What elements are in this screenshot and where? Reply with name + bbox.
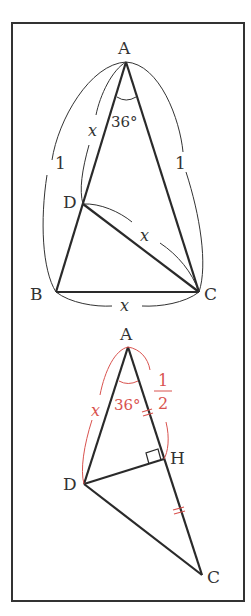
brace-bc-left <box>56 292 112 306</box>
vertex-label-c-2: C <box>207 567 220 587</box>
angle-arc-a-red <box>119 381 138 384</box>
vertex-label-h: H <box>170 448 185 468</box>
brace-ad-upper <box>96 62 126 115</box>
side-label-ad-2: x <box>91 401 100 420</box>
figure-2-triangle-adc: A C D H 36° x 1 2 <box>63 324 220 587</box>
brace-bc-right <box>142 292 199 306</box>
side-label-dc: x <box>140 226 149 245</box>
vertex-label-a: A <box>117 38 131 58</box>
tick-mark-ah <box>142 409 153 416</box>
side-label-ac: 1 <box>175 153 186 173</box>
brace-dc-upper <box>83 204 132 222</box>
geometry-figure: A B C D 36° 1 1 x x x <box>0 0 251 616</box>
figure-1-triangle-abc: A B C D 36° 1 1 x x x <box>30 38 217 315</box>
brace-ah-red-lower <box>164 422 168 459</box>
segment-dh <box>84 459 164 484</box>
brace-ab-lower <box>43 175 56 292</box>
vertex-label-d: D <box>63 192 77 212</box>
vertex-label-d-2: D <box>63 474 77 494</box>
angle-label-a-2: 36° <box>114 396 141 414</box>
side-label-bc: x <box>120 296 129 315</box>
segment-ab <box>56 62 126 292</box>
segment-dc <box>84 484 202 575</box>
vertex-label-b: B <box>30 284 43 304</box>
angle-arc-a <box>117 97 136 100</box>
half-numerator: 1 <box>158 371 168 390</box>
vertex-label-c: C <box>204 284 217 304</box>
angle-label-a: 36° <box>111 113 138 131</box>
brace-ac-upper <box>126 62 183 152</box>
half-denominator: 2 <box>158 394 168 413</box>
segment-dc <box>83 204 199 292</box>
side-label-ad: x <box>88 121 97 140</box>
tick-mark-hc <box>173 507 185 514</box>
vertex-label-a-2: A <box>119 324 133 344</box>
side-label-ab: 1 <box>55 153 66 173</box>
